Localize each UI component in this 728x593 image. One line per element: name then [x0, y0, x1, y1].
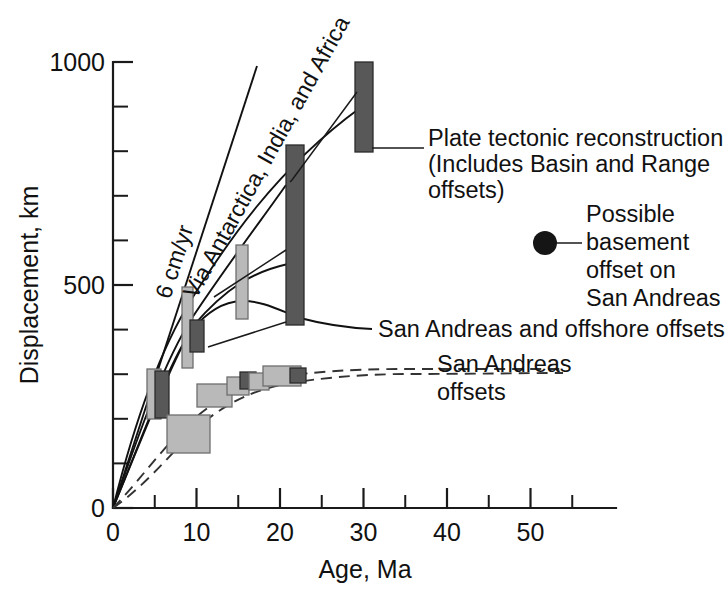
annot-plate-line1: Plate tectonic reconstruction: [428, 125, 723, 151]
data-box-dark-22ma: [286, 145, 304, 325]
annot-plate-line2: (Includes Basin and Range: [428, 151, 710, 177]
data-box-sa-7ma: [167, 415, 210, 453]
annot-possible-line2: basement: [586, 229, 690, 255]
x-tick-label-40: 40: [433, 518, 461, 546]
label-via-antarctica: Via Antarctica, India, and Africa: [178, 12, 355, 303]
x-tick-label-10: 10: [183, 518, 211, 546]
y-tick-label-500: 500: [63, 271, 105, 299]
legend-dot-basement-offset: [533, 231, 557, 255]
annotation-possible-basement: Possible basement offset on San Andreas: [586, 201, 721, 311]
y-tick-label-0: 0: [91, 494, 105, 522]
data-box-dark-5ma: [155, 371, 169, 418]
annot-plate-line3: offsets): [428, 177, 505, 203]
data-box-dark-29ma: [355, 62, 373, 152]
x-tick-label-0: 0: [106, 518, 120, 546]
y-axis-title: Displacement, km: [15, 186, 43, 385]
x-tick-label-30: 30: [350, 518, 378, 546]
figure-root: 0 10 20 30 40 50 1000 500 0 Age, Ma Disp…: [0, 0, 728, 593]
x-tick-label-20: 20: [266, 518, 294, 546]
displacement-vs-age-chart: 0 10 20 30 40 50 1000 500 0 Age, Ma Disp…: [0, 0, 728, 593]
y-tick-label-1000: 1000: [49, 48, 105, 76]
annot-possible-line4: San Andreas: [586, 285, 721, 311]
leader-22ma-bar-lower: [208, 322, 286, 347]
annot-possible-line1: Possible: [586, 201, 675, 227]
x-tick-label-50: 50: [517, 518, 545, 546]
annotation-plate-tectonic: Plate tectonic reconstruction (Includes …: [428, 125, 723, 203]
annot-sa-offsets-line1: San Andreas: [437, 351, 572, 377]
annot-san-andreas-offshore: San Andreas and offshore offsets: [378, 316, 725, 342]
annot-sa-offsets-line2: offsets: [437, 379, 506, 405]
annotation-san-andreas-offsets: San Andreas offsets: [437, 351, 572, 405]
data-box-sa-22ma: [290, 368, 306, 383]
y-tick-labels-group: 1000 500 0: [49, 48, 105, 522]
x-tick-labels-group: 0 10 20 30 40 50: [106, 518, 544, 546]
data-box-dark-10ma: [190, 320, 204, 352]
x-axis-title: Age, Ma: [318, 555, 411, 583]
annot-possible-line3: offset on: [586, 257, 676, 283]
